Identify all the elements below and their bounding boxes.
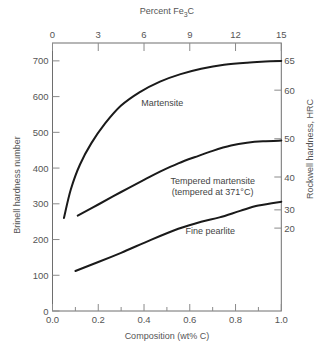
top-axis-tick-label: 12 — [230, 29, 241, 40]
right-axis-tick-label: 50 — [284, 133, 295, 144]
y-tick-label: 500 — [33, 127, 49, 138]
right-axis-tick-label: 40 — [284, 172, 295, 183]
hardness-vs-carbon-chart: 0.00.20.40.60.81.00100200300400500600700… — [0, 0, 323, 358]
x-tick-label: 0.4 — [137, 314, 150, 325]
axes: 0.00.20.40.60.81.00100200300400500600700… — [12, 6, 315, 341]
right-axis-tick-label: 30 — [284, 204, 295, 215]
curve-label-tempered-martensite: Tempered martensite — [170, 176, 255, 186]
curve-fine-pearlite — [75, 202, 281, 271]
y-axis-title: Brinell hardness number — [12, 136, 22, 234]
y-tick-label: 0 — [43, 306, 48, 317]
y-tick-label: 400 — [33, 163, 49, 174]
right-axis-tick-label: 60 — [284, 85, 295, 96]
right-axis-tick-label: 20 — [284, 223, 295, 234]
top-axis-tick-label: 9 — [187, 29, 192, 40]
top-axis-tick-label: 6 — [141, 29, 146, 40]
x-axis-title: Composition (wt% C) — [125, 331, 210, 341]
x-tick-label: 0.2 — [92, 314, 105, 325]
x-tick-label: 0.6 — [183, 314, 196, 325]
curve-label-martensite: Martensite — [141, 98, 183, 108]
curve-label-fine-pearlite: Fine pearlite — [186, 226, 236, 236]
top-axis-tick-label: 3 — [96, 29, 101, 40]
y-tick-label: 600 — [33, 91, 49, 102]
top-axis-title: Percent Fe3C — [140, 6, 195, 18]
y-tick-label: 100 — [33, 270, 49, 281]
y-tick-label: 700 — [33, 55, 49, 66]
chart-canvas: 0.00.20.40.60.81.00100200300400500600700… — [0, 0, 323, 358]
right-axis-title: Rockwell hardness, HRC — [305, 98, 315, 199]
y-tick-label: 300 — [33, 198, 49, 209]
x-tick-label: 1.0 — [275, 314, 288, 325]
top-axis-tick-label: 15 — [276, 29, 287, 40]
x-tick-label: 0.8 — [229, 314, 242, 325]
top-axis-tick-label: 0 — [50, 29, 55, 40]
labels: MartensiteTempered martensite(tempered a… — [141, 98, 255, 237]
right-axis-tick-label: 65 — [284, 55, 295, 66]
y-tick-label: 200 — [33, 234, 49, 245]
curves — [64, 61, 281, 271]
curve-label-tempered-martensite-sub: (tempered at 371°C) — [172, 187, 254, 197]
